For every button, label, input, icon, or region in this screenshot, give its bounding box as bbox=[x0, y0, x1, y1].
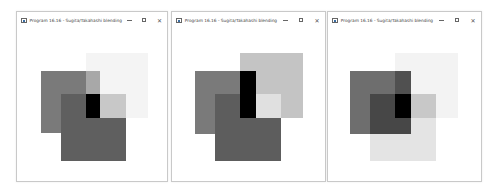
title-bar[interactable]: Program 16.16 - Sugita/Takahashi blendin… bbox=[172, 12, 325, 28]
minimize-button[interactable] bbox=[122, 12, 137, 28]
app-window-3: Program 16.16 - Sugita/Takahashi blendin… bbox=[327, 11, 482, 182]
canvas bbox=[17, 28, 167, 181]
maximize-icon bbox=[455, 18, 459, 22]
maximize-button[interactable] bbox=[449, 12, 465, 28]
maximize-icon bbox=[142, 18, 146, 22]
close-icon: ✕ bbox=[471, 17, 476, 24]
minimize-icon bbox=[283, 20, 288, 21]
app-icon bbox=[176, 18, 182, 23]
canvas bbox=[172, 28, 325, 181]
minimize-button[interactable] bbox=[433, 12, 449, 28]
window-title: Program 16.16 - Sugita/Takahashi blendin… bbox=[30, 18, 122, 23]
overlap-b-c bbox=[256, 94, 281, 118]
overlap-a-b bbox=[86, 71, 100, 94]
minimize-icon bbox=[127, 20, 132, 21]
close-icon: ✕ bbox=[157, 17, 162, 24]
window-title: Program 16.16 - Sugita/Takahashi blendin… bbox=[185, 18, 277, 23]
app-icon bbox=[332, 18, 338, 23]
app-icon bbox=[21, 18, 27, 23]
minimize-icon bbox=[439, 20, 444, 21]
maximize-button[interactable] bbox=[293, 12, 309, 28]
close-button[interactable]: ✕ bbox=[309, 12, 325, 28]
title-bar[interactable]: Program 16.16 - Sugita/Takahashi blendin… bbox=[328, 12, 481, 28]
overlap-a-b-c bbox=[86, 94, 100, 118]
close-button[interactable]: ✕ bbox=[152, 12, 167, 28]
close-icon: ✕ bbox=[315, 17, 320, 24]
window-title: Program 16.16 - Sugita/Takahashi blendin… bbox=[341, 18, 433, 23]
canvas bbox=[328, 28, 481, 181]
app-window-1: Program 16.16 - Sugita/Takahashi blendin… bbox=[16, 11, 168, 182]
overlap-b-c bbox=[100, 94, 126, 118]
maximize-button[interactable] bbox=[137, 12, 152, 28]
title-bar[interactable]: Program 16.16 - Sugita/Takahashi blendin… bbox=[17, 12, 167, 28]
minimize-button[interactable] bbox=[277, 12, 293, 28]
overlap-a-b bbox=[395, 71, 411, 94]
close-button[interactable]: ✕ bbox=[465, 12, 481, 28]
app-window-2: Program 16.16 - Sugita/Takahashi blendin… bbox=[171, 11, 326, 182]
overlap-a-b bbox=[240, 71, 256, 118]
maximize-icon bbox=[299, 18, 303, 22]
overlap-a-b-c bbox=[395, 94, 411, 118]
